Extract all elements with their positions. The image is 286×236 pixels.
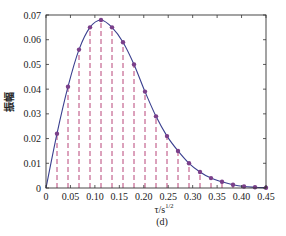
x-tick-label: 0.20 [135,191,153,202]
y-tick-label: 0.01 [24,158,42,169]
y-axis-ticks: 00.010.020.030.040.050.060.07 [24,10,267,194]
sample-marker [121,40,125,44]
sample-marker [55,131,59,135]
y-axis-label: 振幅 [3,92,15,112]
x-axis-label: τ/s1/2 [154,202,173,215]
x-axis-label-base: τ/s [154,204,165,215]
x-tick-label: 0.25 [159,191,177,202]
sample-marker [110,25,114,29]
y-tick-label: 0.02 [24,133,42,144]
chart-caption: (d) [156,216,168,228]
sample-marker [143,89,147,93]
sample-marker [198,170,202,174]
x-tick-label: 0 [44,191,49,202]
sample-marker [88,25,92,29]
sample-marker [253,185,257,189]
sample-markers [55,18,268,190]
sample-marker [99,18,103,22]
x-axis-ticks: 00.050.100.150.200.250.300.350.400.45 [44,15,275,202]
sample-marker [187,161,191,165]
sample-marker [176,149,180,153]
x-tick-label: 0.05 [62,191,80,202]
y-tick-label: 0.04 [24,84,42,95]
sample-marker [77,47,81,51]
sample-stems [57,20,266,188]
y-tick-label: 0.06 [24,34,42,45]
sample-marker [231,183,235,187]
y-tick-label: 0.03 [24,108,42,119]
x-tick-label: 0.15 [111,191,129,202]
y-tick-label: 0.07 [24,10,42,21]
x-tick-label: 0.35 [208,191,226,202]
x-tick-label: 0.10 [86,191,104,202]
sample-marker [220,180,224,184]
x-axis-label-superscript: 1/2 [165,202,173,209]
x-tick-label: 0.30 [184,191,202,202]
x-tick-label: 0.45 [257,191,275,202]
sample-marker [165,134,169,138]
y-tick-label: 0 [36,183,41,194]
sample-marker [132,62,136,66]
x-tick-label: 0.40 [233,191,251,202]
y-tick-label: 0.05 [24,59,42,70]
sample-marker [154,114,158,118]
amplitude-chart: 00.050.100.150.200.250.300.350.400.45 00… [0,0,286,236]
sample-marker [66,84,70,88]
sample-marker [209,176,213,180]
